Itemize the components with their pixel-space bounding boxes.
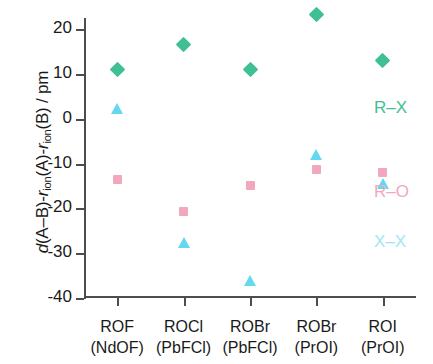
y-axis-tick-label: -30 — [47, 242, 72, 262]
y-axis-tick: -20 — [76, 208, 84, 210]
data-point-square — [113, 175, 122, 184]
y-axis-tick: 0 — [76, 119, 84, 121]
y-axis-tick-label: 20 — [53, 18, 72, 38]
scatter-chart-figure: d(A–B)-rion(A)-rion(B) / pm 20100-10-20-… — [0, 0, 433, 364]
x-axis-tick — [383, 298, 385, 306]
y-axis-title-sub2: ion — [41, 130, 53, 144]
plot-area: 20100-10-20-30-40 ROF(NdOF)ROCl(PbFCl)RO… — [84, 29, 416, 298]
data-point-square — [246, 181, 255, 190]
y-axis-title-part3: (B) / pm — [33, 71, 52, 130]
y-axis-tick: -30 — [76, 253, 84, 255]
data-point-diamond — [176, 36, 192, 52]
data-point-diamond — [309, 6, 325, 22]
x-axis-tick — [117, 298, 119, 306]
y-axis-tick: -40 — [76, 298, 84, 300]
data-point-square — [179, 207, 188, 216]
data-point-diamond — [109, 62, 125, 78]
y-axis-tick: -10 — [76, 164, 84, 166]
x-axis-tick — [184, 298, 186, 306]
y-axis-title-sub1: ion — [41, 177, 53, 191]
y-axis-tick: 10 — [76, 74, 84, 76]
data-point-diamond — [242, 62, 258, 78]
data-point-triangle — [111, 103, 123, 114]
data-point-triangle — [310, 149, 322, 160]
y-axis-tick-label: -10 — [47, 153, 72, 173]
x-axis-category-compound: ROI — [333, 316, 433, 337]
legend-item-XX: X–X — [374, 232, 406, 252]
data-point-square — [378, 168, 387, 177]
y-axis-tick: 20 — [76, 29, 84, 31]
y-axis-title-r2: r — [33, 144, 52, 149]
x-axis-tick — [250, 298, 252, 306]
legend-item-RO: R–O — [374, 182, 409, 202]
y-axis-title-r1: r — [33, 191, 52, 196]
legend-item-RX: R–X — [374, 98, 407, 118]
y-axis-line — [84, 18, 86, 299]
x-axis-category-structure: (PrOI) — [333, 337, 433, 358]
y-axis-tick-label: -40 — [47, 287, 72, 307]
y-axis-tick-label: 10 — [53, 63, 72, 83]
y-axis-tick-label: 0 — [63, 108, 72, 128]
x-axis-tick — [316, 298, 318, 306]
y-axis-tick-label: -20 — [47, 197, 72, 217]
data-point-triangle — [178, 237, 190, 248]
data-point-triangle — [244, 275, 256, 286]
x-axis-category-5: ROI(PrOI) — [333, 316, 433, 358]
data-point-diamond — [375, 53, 391, 69]
data-point-square — [312, 165, 321, 174]
